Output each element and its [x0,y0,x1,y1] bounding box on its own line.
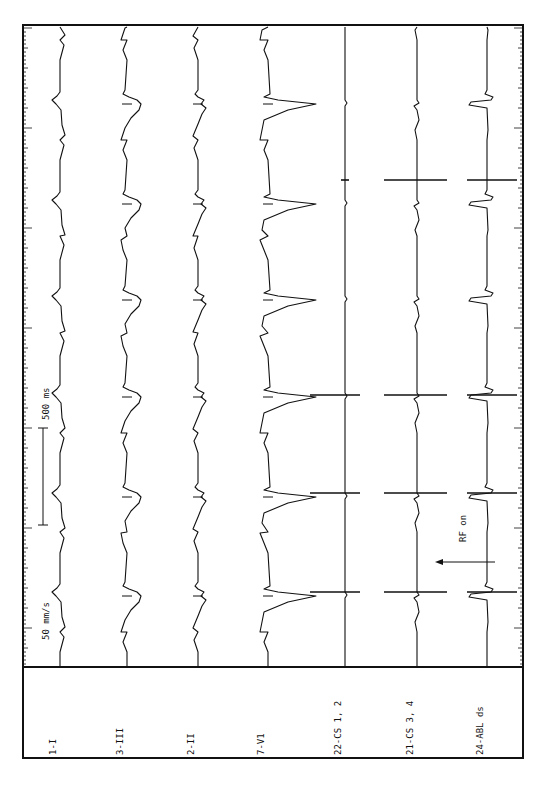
trace-24-abl-ds [469,27,493,666]
channel-label: 2-II [186,733,196,755]
annotations: 50 mm/s500 msRF on [38,387,495,640]
rf-on-text: RF on [458,515,468,542]
channel-label: 1-I [48,739,58,755]
channel-label: 22-CS 1, 2 [333,701,343,755]
speed-label-text: 50 mm/s [41,602,51,640]
trace-3-iii [121,27,141,666]
time-tick-marks [23,28,523,664]
channel-label: 24-ABL ds [475,706,485,755]
trace-1-i [52,27,65,666]
channel-label: 7-V1 [256,733,266,755]
channel-traces [52,27,517,666]
trace-7-v1 [260,27,316,666]
electrogram-svg: 1-I3-III2-II7-V122-CS 1, 221-CS 3, 424-A… [0,0,541,785]
electrogram-figure: 1-I3-III2-II7-V122-CS 1, 221-CS 3, 424-A… [0,0,541,785]
rf-arrow-head [435,559,443,565]
scale-bar-text: 500 ms [41,387,51,420]
trace-2-ii [193,27,206,666]
channel-label: 3-III [115,728,125,755]
trace-21-cs-3-4 [414,27,419,666]
trace-22-cs-1-2 [345,27,347,666]
channel-label: 21-CS 3, 4 [405,701,415,755]
channel-labels: 1-I3-III2-II7-V122-CS 1, 221-CS 3, 424-A… [48,701,485,755]
